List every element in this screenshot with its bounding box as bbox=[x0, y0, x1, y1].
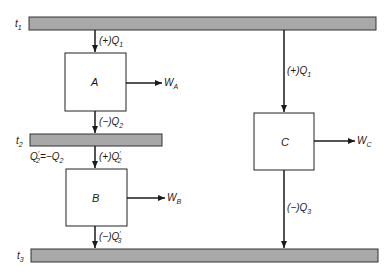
engine-c-label: C bbox=[281, 136, 289, 148]
engine-a-label: A bbox=[90, 76, 98, 88]
flow-a-in-label: (+)Q1 bbox=[99, 35, 123, 48]
reservoir-t3 bbox=[31, 249, 378, 262]
flow-c-out-label: (−)Q3 bbox=[287, 202, 311, 215]
flow-a-out-label: (−)Q2 bbox=[99, 116, 123, 129]
flow-c-in-label: (+)Q1 bbox=[287, 65, 311, 78]
heat-engine-diagram: t1 t2 t3 A B C WA WB WC (+)Q1 (−)Q2 (+)Q… bbox=[0, 0, 392, 279]
reservoir-t2 bbox=[30, 134, 162, 146]
work-b-label: WB bbox=[167, 192, 181, 205]
flow-b-in-label: (+)Q′2 bbox=[99, 150, 122, 164]
engine-b-label: B bbox=[92, 192, 99, 204]
reservoir-t1 bbox=[29, 17, 376, 30]
work-a-label: WA bbox=[164, 77, 178, 90]
reservoir-t1-label: t1 bbox=[15, 18, 22, 31]
work-c-label: WC bbox=[357, 135, 372, 148]
reservoir-t2-label: t2 bbox=[16, 135, 23, 148]
reservoir-t3-label: t3 bbox=[17, 250, 24, 263]
flow-b-out-label: (−)Q′3 bbox=[99, 230, 122, 244]
relation-label: Q′2=−Q2 bbox=[30, 150, 63, 164]
